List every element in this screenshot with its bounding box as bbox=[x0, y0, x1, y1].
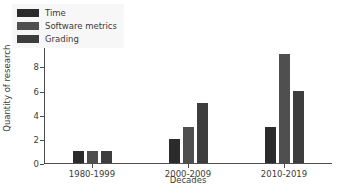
legend-swatch bbox=[17, 22, 39, 30]
legend-item: Time bbox=[17, 8, 117, 18]
bar bbox=[169, 139, 180, 163]
legend-label: Grading bbox=[45, 35, 79, 44]
bar bbox=[293, 91, 304, 163]
x-axis-label: Decades bbox=[44, 176, 332, 185]
x-tick-mark bbox=[188, 164, 189, 168]
legend-swatch bbox=[17, 35, 39, 43]
y-tick-label: 0 bbox=[34, 160, 39, 169]
y-tick-label: 4 bbox=[34, 111, 39, 120]
bar bbox=[73, 151, 84, 163]
y-tick-label: 8 bbox=[34, 63, 39, 72]
chart-legend: TimeSoftware metricsGrading bbox=[12, 4, 124, 48]
bar bbox=[197, 103, 208, 163]
legend-label: Software metrics bbox=[45, 22, 117, 31]
y-tick-mark bbox=[40, 116, 44, 117]
legend-item: Grading bbox=[17, 34, 117, 44]
bar bbox=[265, 127, 276, 163]
y-tick-label: 2 bbox=[34, 136, 39, 145]
legend-item: Software metrics bbox=[17, 21, 117, 31]
legend-label: Time bbox=[45, 9, 66, 18]
x-tick-mark bbox=[284, 164, 285, 168]
y-axis-label-text: Quantity of research bbox=[3, 44, 12, 131]
bar bbox=[279, 54, 290, 163]
legend-swatch bbox=[17, 9, 39, 17]
bar bbox=[101, 151, 112, 163]
y-tick-mark bbox=[40, 92, 44, 93]
bar bbox=[87, 151, 98, 163]
y-tick-mark bbox=[40, 164, 44, 165]
y-tick-mark bbox=[40, 67, 44, 68]
x-tick-mark bbox=[92, 164, 93, 168]
y-tick-label: 6 bbox=[34, 87, 39, 96]
bar-chart-figure: Quantity of research 024681012 1980-1999… bbox=[0, 0, 344, 193]
y-tick-mark bbox=[40, 140, 44, 141]
bar bbox=[183, 127, 194, 163]
